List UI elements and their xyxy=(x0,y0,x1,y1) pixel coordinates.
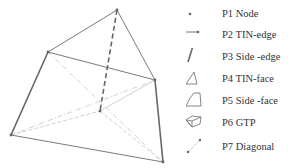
legend-label: P4 TIN-face xyxy=(222,73,274,84)
side-face-icon xyxy=(186,92,212,112)
legend-label: P6 GTP xyxy=(222,117,256,128)
legend-item-diagonal: P7 Diagonal xyxy=(186,138,288,158)
legend-item-tin-face: P4 TIN-face xyxy=(186,70,288,90)
diagonal-icon xyxy=(186,138,212,158)
node-icon xyxy=(186,5,212,25)
hidden-edges xyxy=(11,52,163,162)
legend-item-side-edge: P3 Side -edge xyxy=(186,48,288,68)
legend: P1 Node P2 TIN-edge P3 Side -edge P4 TIN… xyxy=(186,0,288,168)
legend-label: P7 Diagonal xyxy=(222,141,274,152)
legend-item-gtp: P6 GTP xyxy=(186,114,288,134)
visible-edges xyxy=(11,10,163,162)
legend-label: P3 Side -edge xyxy=(222,51,280,62)
gtp-diagram xyxy=(0,0,200,168)
tin-edge-icon xyxy=(186,26,212,46)
legend-item-tin-edge: P2 TIN-edge xyxy=(186,26,288,46)
legend-item-side-face: P5 Side -face xyxy=(186,92,288,112)
gtp-icon xyxy=(186,114,212,134)
tin-face-icon xyxy=(186,70,212,90)
legend-label: P5 Side -face xyxy=(222,95,278,106)
legend-label: P2 TIN-edge xyxy=(222,29,276,40)
side-edge-icon xyxy=(186,48,212,68)
legend-label: P1 Node xyxy=(222,8,258,19)
legend-item-node: P1 Node xyxy=(186,5,288,25)
